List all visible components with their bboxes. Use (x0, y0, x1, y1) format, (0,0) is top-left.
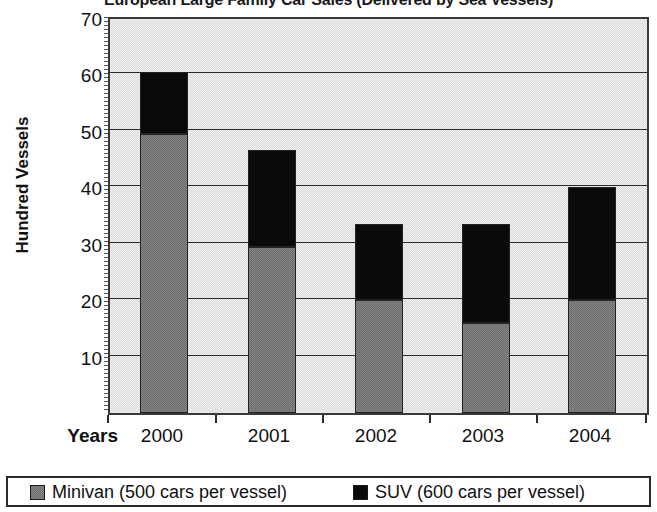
gridline-40 (110, 185, 647, 186)
bar-segment-minivan-2003[interactable] (462, 323, 510, 413)
x-tick-label-2003: 2003 (443, 425, 523, 447)
y-tick-label-10: 10 (32, 349, 102, 368)
bar-segment-suv-2002[interactable] (355, 224, 403, 300)
legend-label-suv: SUV (600 cars per vessel) (375, 482, 585, 503)
bar-segment-minivan-2001[interactable] (248, 247, 296, 413)
x-tick-mark-0 (107, 415, 109, 423)
x-tick-mark-2 (322, 415, 324, 423)
chart-legend: Minivan (500 cars per vessel) SUV (600 c… (6, 476, 651, 507)
y-tick-label-50: 50 (32, 123, 102, 142)
bar-segment-suv-2000[interactable] (140, 72, 188, 134)
x-tick-mark-5 (645, 415, 647, 423)
y-tick-label-60: 60 (32, 66, 102, 85)
x-axis-title: Years (40, 425, 118, 447)
chart-page: European Large Family Car Sales (Deliver… (0, 0, 657, 512)
bar-segment-minivan-2000[interactable] (140, 134, 188, 413)
plot-area (108, 17, 649, 415)
bar-group-2000[interactable] (140, 72, 188, 413)
gridline-60 (110, 72, 647, 73)
bar-group-2001[interactable] (248, 150, 296, 413)
y-tick-label-40: 40 (32, 179, 102, 198)
y-tick-label-20: 20 (32, 292, 102, 311)
bar-segment-suv-2003[interactable] (462, 224, 510, 323)
x-axis: Years 2000 2001 2002 2003 2004 (0, 420, 657, 456)
gridline-50 (110, 129, 647, 130)
y-tick-label-70: 70 (32, 10, 102, 29)
legend-label-minivan: Minivan (500 cars per vessel) (52, 482, 287, 503)
legend-item-suv[interactable]: SUV (600 cars per vessel) (353, 481, 585, 503)
bar-group-2004[interactable] (568, 187, 616, 413)
bar-segment-minivan-2002[interactable] (355, 300, 403, 413)
x-tick-mark-4 (536, 415, 538, 423)
bar-group-2003[interactable] (462, 224, 510, 413)
y-tick-label-30: 30 (32, 236, 102, 255)
x-tick-label-2001: 2001 (229, 425, 309, 447)
x-tick-label-2002: 2002 (336, 425, 416, 447)
x-tick-label-2004: 2004 (550, 425, 630, 447)
legend-swatch-minivan-icon (30, 485, 45, 500)
bar-group-2002[interactable] (355, 224, 403, 413)
bar-segment-minivan-2004[interactable] (568, 300, 616, 413)
legend-swatch-suv-icon (353, 485, 368, 500)
x-tick-mark-3 (429, 415, 431, 423)
legend-item-minivan[interactable]: Minivan (500 cars per vessel) (30, 481, 287, 503)
x-tick-label-2000: 2000 (122, 425, 202, 447)
x-tick-mark-1 (215, 415, 217, 423)
bar-segment-suv-2004[interactable] (568, 187, 616, 300)
bar-segment-suv-2001[interactable] (248, 150, 296, 247)
